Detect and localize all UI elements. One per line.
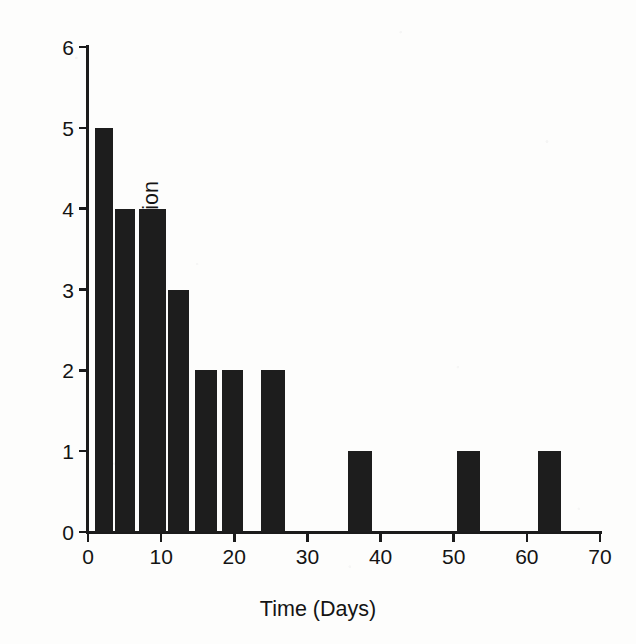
- y-tick-mark: [79, 127, 88, 130]
- y-tick-label: 4: [62, 198, 74, 219]
- y-tick-label: 1: [62, 441, 74, 462]
- bar: [139, 209, 165, 532]
- x-tick-label: 60: [515, 546, 538, 567]
- chart-figure: Relative Level of Transfection Time (Day…: [0, 0, 636, 644]
- x-tick-label: 70: [588, 546, 611, 567]
- y-tick-mark: [79, 288, 88, 291]
- x-tick-label: 40: [369, 546, 392, 567]
- x-tick-label: 20: [223, 546, 246, 567]
- x-tick-label: 10: [149, 546, 172, 567]
- y-tick-mark: [79, 369, 88, 372]
- y-tick-mark: [79, 207, 88, 210]
- x-tick-mark: [306, 532, 309, 542]
- y-tick-mark: [79, 46, 88, 49]
- x-tick-mark: [599, 532, 602, 542]
- x-tick-mark: [87, 532, 90, 542]
- y-tick-label: 5: [62, 117, 74, 138]
- y-tick-mark: [79, 450, 88, 453]
- x-tick-mark: [233, 532, 236, 542]
- bar: [538, 451, 561, 532]
- bar: [95, 128, 113, 532]
- bar: [115, 209, 135, 532]
- y-tick-label: 0: [62, 522, 74, 543]
- bar: [222, 370, 243, 532]
- y-tick-label: 2: [62, 360, 74, 381]
- x-axis-label: Time (Days): [0, 597, 636, 622]
- plot-area: 0123456 010203040506070: [88, 47, 600, 532]
- bar: [195, 370, 217, 532]
- x-tick-label: 50: [442, 546, 465, 567]
- x-tick-mark: [379, 532, 382, 542]
- bar: [348, 451, 371, 532]
- x-tick-label: 0: [82, 546, 94, 567]
- y-tick-label: 3: [62, 279, 74, 300]
- x-tick-mark: [526, 532, 529, 542]
- x-tick-mark: [452, 532, 455, 542]
- bar: [168, 290, 188, 533]
- y-tick-label: 6: [62, 37, 74, 58]
- bar: [457, 451, 480, 532]
- bar: [261, 370, 284, 532]
- x-tick-label: 30: [296, 546, 319, 567]
- x-tick-mark: [160, 532, 163, 542]
